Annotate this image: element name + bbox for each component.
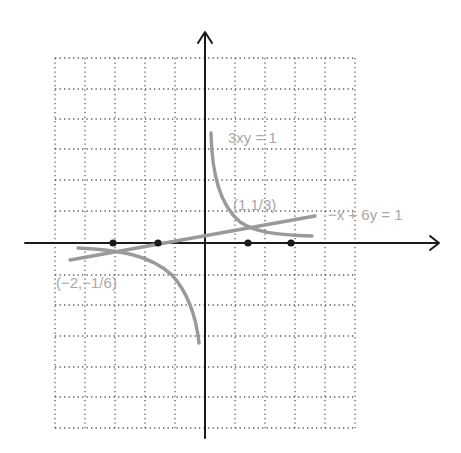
axes bbox=[25, 32, 439, 438]
line-graph bbox=[70, 216, 315, 260]
intersection-label-2: (−2,−1/6) bbox=[56, 274, 117, 291]
curves bbox=[70, 133, 315, 343]
point-marker bbox=[109, 239, 116, 246]
point-marker bbox=[244, 239, 251, 246]
point-marker bbox=[154, 239, 161, 246]
line-label: −x + 6y = 1 bbox=[328, 206, 403, 223]
graph-canvas: 3xy = 1 (1,1/3) −x + 6y = 1 (−2,−1/6) bbox=[0, 0, 461, 453]
intersection-label-1: (1,1/3) bbox=[233, 196, 276, 213]
point-marker bbox=[287, 239, 294, 246]
hyperbola-lower-branch bbox=[78, 248, 199, 343]
hyperbola-label: 3xy = 1 bbox=[228, 129, 277, 146]
